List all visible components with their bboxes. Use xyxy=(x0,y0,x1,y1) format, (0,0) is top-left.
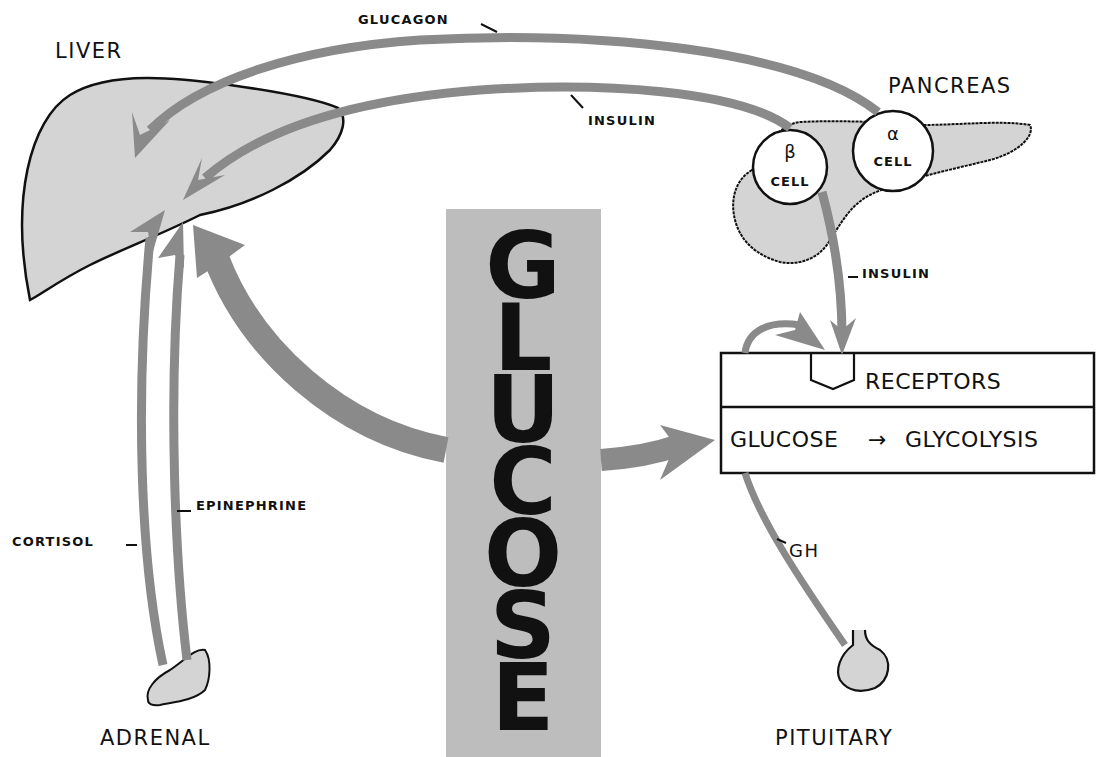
arrow-icon: → xyxy=(868,427,887,452)
glucose-to-cell-arrow xyxy=(601,445,680,460)
glucose-letter: E xyxy=(492,645,555,752)
glycolysis-label: GLYCOLYSIS xyxy=(905,427,1039,452)
glucose-regulation-diagram: G L U C O S E LIVER β CELL α CELL PANCRE… xyxy=(0,0,1105,757)
beta-symbol: β xyxy=(784,141,796,162)
adrenal-organ: ADRENAL xyxy=(100,650,211,750)
cortisol-label: CORTISOL xyxy=(12,534,94,549)
beta-cell-label: CELL xyxy=(771,174,810,189)
adrenal-label: ADRENAL xyxy=(100,726,211,750)
glucose-column: G L U C O S E xyxy=(446,209,601,757)
pancreas-label: PANCREAS xyxy=(888,74,1012,98)
alpha-symbol: α xyxy=(887,123,899,144)
receptors-label: RECEPTORS xyxy=(865,369,1001,394)
glucagon-label: GLUCAGON xyxy=(358,12,449,27)
epinephrine-label: EPINEPHRINE xyxy=(196,498,307,513)
liver-label: LIVER xyxy=(55,39,123,63)
glucose-to-liver-arrow xyxy=(215,255,446,450)
gh-label: GH xyxy=(789,540,819,561)
pancreas-organ: β CELL α CELL PANCREAS xyxy=(733,74,1031,263)
target-cell-box: RECEPTORS GLUCOSE → GLYCOLYSIS xyxy=(721,353,1094,473)
glucose-label: GLUCOSE xyxy=(730,427,838,452)
pituitary-organ: PITUITARY xyxy=(775,630,893,750)
epinephrine-arrow xyxy=(174,255,187,660)
insulin-receptor-label: INSULIN xyxy=(862,266,930,281)
insulin-liver-label: INSULIN xyxy=(588,113,656,128)
gh-loop-arrowhead xyxy=(775,312,825,350)
cortisol-arrow xyxy=(141,238,163,665)
alpha-cell-label: CELL xyxy=(874,154,913,169)
pituitary-label: PITUITARY xyxy=(775,726,893,750)
